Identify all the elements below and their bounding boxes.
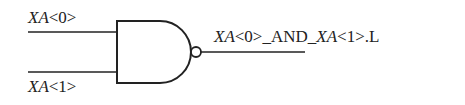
input-label-1: XA<1> xyxy=(27,77,76,96)
output-label: XA<0>_AND_XA<1>.L xyxy=(213,27,379,46)
nand-gate-diagram: XA<0> XA<1> XA<0>_AND_XA<1>.L xyxy=(0,0,465,105)
inversion-bubble xyxy=(191,47,201,57)
nand-gate-body xyxy=(117,21,191,83)
input-label-0: XA<0> xyxy=(27,8,76,27)
